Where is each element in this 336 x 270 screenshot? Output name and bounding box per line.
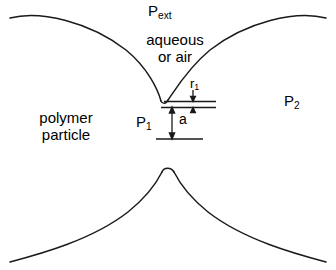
label-polymer-particle-line-1: polymer bbox=[39, 109, 92, 126]
label-pressure-outer: P2 bbox=[284, 93, 300, 110]
label-pressure-inner-symbol: P bbox=[136, 113, 146, 130]
gap-arrowhead-down bbox=[169, 133, 174, 139]
label-external-pressure-subscript: ext bbox=[158, 10, 172, 21]
label-pressure-inner-subscript: 1 bbox=[146, 121, 152, 132]
label-pressure-outer-symbol: P bbox=[284, 92, 294, 109]
label-pressure-outer-subscript: 2 bbox=[294, 100, 300, 111]
label-pressure-inner: P1 bbox=[136, 114, 152, 131]
radius-arrowhead-down bbox=[191, 96, 196, 101]
diagram-canvas: Pext aqueousor air polymerparticle P1 P2… bbox=[0, 0, 336, 270]
radius-arrowhead-up bbox=[191, 108, 196, 113]
lower-right-particle-surface bbox=[174, 172, 326, 262]
label-medium-line-1: aqueous bbox=[146, 31, 204, 48]
label-medium: aqueousor air bbox=[132, 32, 218, 66]
label-radius-subscript: 1 bbox=[194, 82, 199, 92]
lower-left-particle-surface bbox=[10, 172, 162, 262]
lower-particle-apex bbox=[162, 168, 174, 172]
gap-dimension-arrow bbox=[169, 107, 174, 139]
label-external-pressure-symbol: P bbox=[148, 2, 158, 19]
label-external-pressure: Pext bbox=[148, 3, 172, 20]
label-gap: a bbox=[179, 112, 187, 128]
lower-particle-outline-group bbox=[10, 168, 326, 262]
label-radius: r1 bbox=[190, 77, 199, 92]
label-medium-line-2: or air bbox=[158, 48, 192, 65]
label-polymer-particle-line-2: particle bbox=[42, 126, 90, 143]
label-polymer-particle: polymerparticle bbox=[18, 110, 114, 144]
